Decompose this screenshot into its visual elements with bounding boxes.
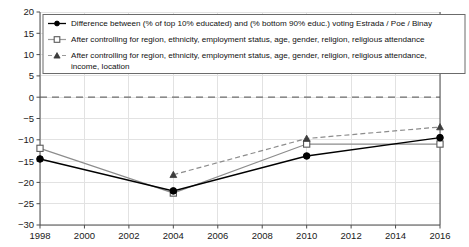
data-point-filled-circle — [303, 153, 310, 160]
legend-label-3-continued: income, location — [71, 62, 130, 71]
legend-label-1: Difference between (% of top 10% educate… — [71, 19, 433, 28]
data-point-open-square — [437, 141, 443, 147]
x-tick-label: 2014 — [385, 230, 406, 241]
x-tick-label: 1998 — [29, 230, 50, 241]
line-chart: 20151050−5−10−15−20−25−30 19982000200220… — [0, 0, 469, 247]
series-line-raw-difference — [40, 138, 440, 191]
y-tick-label: 0 — [29, 92, 34, 103]
x-tick-label: 2012 — [341, 230, 362, 241]
y-tick-label: −30 — [18, 219, 34, 230]
y-tick-label: 20 — [23, 6, 34, 17]
y-tick-label: 10 — [23, 49, 34, 60]
y-tick-label: 15 — [23, 28, 34, 39]
chart-container: 20151050−5−10−15−20−25−30 19982000200220… — [0, 0, 469, 247]
x-axis-ticks: 1998200020022004200620082010201220142016 — [29, 225, 450, 241]
data-point-open-square — [37, 145, 43, 151]
x-tick-label: 2004 — [163, 230, 184, 241]
x-tick-label: 2000 — [74, 230, 95, 241]
legend-marker-open-square-icon — [54, 37, 60, 43]
y-tick-label: −20 — [18, 177, 34, 188]
x-tick-label: 2010 — [296, 230, 317, 241]
y-tick-label: 5 — [29, 70, 34, 81]
data-point-filled-circle — [170, 188, 177, 195]
x-tick-label: 2008 — [252, 230, 273, 241]
x-tick-label: 2016 — [429, 230, 450, 241]
series-markers-raw-difference — [37, 134, 444, 194]
legend-label-2: After controlling for region, ethnicity,… — [71, 35, 425, 44]
data-point-open-square — [304, 141, 310, 147]
y-tick-label: −15 — [18, 156, 34, 167]
data-point-filled-circle — [437, 134, 444, 141]
data-point-filled-triangle — [437, 124, 444, 130]
chart-legend: Difference between (% of top 10% educate… — [43, 15, 465, 74]
x-tick-label: 2006 — [207, 230, 228, 241]
legend-marker-filled-circle-icon — [55, 21, 60, 26]
legend-label-3: After controlling for region, ethnicity,… — [71, 51, 427, 60]
data-point-filled-circle — [37, 156, 44, 163]
y-tick-label: −5 — [23, 113, 34, 124]
y-axis-ticks: 20151050−5−10−15−20−25−30 — [18, 6, 40, 230]
x-tick-label: 2002 — [118, 230, 139, 241]
y-tick-label: −25 — [18, 198, 34, 209]
y-tick-label: −10 — [18, 134, 34, 145]
series-line-controls-demographics — [40, 144, 440, 193]
